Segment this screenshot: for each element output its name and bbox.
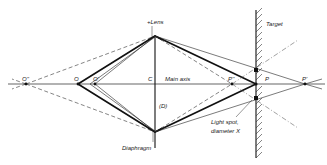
light-spot-leader: [236, 100, 252, 117]
main-axis-label: Main axis: [165, 76, 190, 82]
lens-label: +Lens: [147, 19, 164, 25]
target-label: Target: [266, 21, 283, 27]
point-O-double-prime-marker: [25, 83, 28, 86]
light-spot-top-marker: [254, 68, 258, 72]
ray-Oprime-top-2: [90, 37, 155, 84]
point-O-double-prime-label: O'': [22, 76, 30, 82]
center-label: C: [148, 76, 153, 82]
point-O-marker: [77, 83, 80, 86]
diaphragm-symbol-label: (D): [159, 103, 167, 109]
point-P-prime-marker: [304, 83, 307, 86]
light-spot-label-line1: Light spot,: [211, 119, 239, 125]
diaphragm-label: Diaphragm: [122, 145, 151, 151]
light-spot-label-line2: diameter X: [211, 128, 241, 134]
point-O-label: O: [74, 76, 79, 82]
light-spot-bottom-marker: [254, 96, 258, 100]
ray-Oprime-top: [95, 36, 322, 89]
ray-Oprime-bottom-2: [90, 84, 155, 131]
point-P-double-prime-marker: [231, 83, 234, 86]
ray-Oprime-bottom: [95, 79, 322, 132]
point-O-prime-marker: [94, 83, 97, 86]
ray-Pdouble-cont-down: [232, 84, 298, 128]
point-O-prime-label: O': [93, 76, 100, 82]
optical-diagram: +Lens Target Main axis C (D) Diaphragm L…: [0, 0, 327, 165]
point-P-double-prime-label: P'': [228, 76, 235, 82]
point-P-prime-label: P': [302, 76, 308, 82]
point-P-label: P: [265, 76, 269, 82]
ray-Odouble-ext-top: [12, 84, 26, 89]
point-P-marker: [254, 82, 257, 85]
